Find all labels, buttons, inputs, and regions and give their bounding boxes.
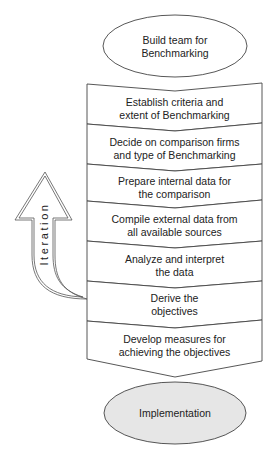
step-label-5: Analyze and interpret the data xyxy=(87,253,262,278)
step-label-7: Develop measures for achieving the objec… xyxy=(87,333,262,358)
iteration-arrow-icon xyxy=(15,172,87,299)
step-label-6: Derive the objectives xyxy=(87,292,262,317)
start-label: Build team for Benchmarking xyxy=(115,34,235,59)
step-label-4: Compile external data from all available… xyxy=(87,213,262,238)
step-label-2: Decide on comparison firms and type of B… xyxy=(87,136,262,161)
step-label-3: Prepare internal data for the comparison xyxy=(87,175,262,200)
step-label-1: Establish criteria and extent of Benchma… xyxy=(87,96,262,121)
iteration-label: Iteration xyxy=(38,202,50,265)
end-label: Implementation xyxy=(115,407,235,420)
